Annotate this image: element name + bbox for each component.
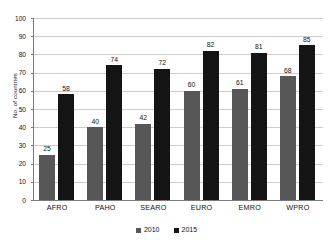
bar-afro-2015 — [58, 94, 74, 200]
y-axis-tick-label: 60 — [19, 87, 26, 94]
bar-value-label: 82 — [196, 41, 226, 49]
legend-swatch-icon — [174, 228, 179, 233]
y-axis-tick-label: 0 — [22, 197, 26, 204]
bar-group: 6181 — [227, 18, 275, 200]
y-axis-tick-mark — [31, 200, 34, 201]
legend-label: 2010 — [144, 226, 160, 234]
bar-value-label: 72 — [147, 59, 177, 67]
bar-chart: No. of countries 0102030405060708090100 … — [0, 0, 333, 246]
x-axis-tick-label-wpro: WPRO — [268, 203, 328, 212]
bar-value-label: 85 — [292, 36, 322, 44]
bar-paho-2010 — [87, 127, 103, 200]
bar-group: 4074 — [82, 18, 130, 200]
y-axis-tick-label: 50 — [19, 106, 26, 113]
y-axis-tick-label: 90 — [19, 33, 26, 40]
y-axis-tick-labels: 0102030405060708090100 — [0, 0, 30, 246]
plot-area: 255840744272608261816885 — [33, 18, 323, 201]
bar-value-label: 81 — [244, 43, 274, 51]
bar-wpro-2010 — [280, 76, 296, 200]
bar-paho-2015 — [106, 65, 122, 200]
y-axis-tick-label: 40 — [19, 124, 26, 131]
y-axis-tick-label: 70 — [19, 69, 26, 76]
bar-group: 6885 — [275, 18, 323, 200]
bar-searo-2010 — [135, 124, 151, 200]
y-axis-tick-label: 30 — [19, 142, 26, 149]
bar-euro-2010 — [184, 91, 200, 200]
y-axis-tick-label: 10 — [19, 178, 26, 185]
legend-item-2015: 2015 — [174, 226, 198, 234]
y-axis-tick-label: 80 — [19, 51, 26, 58]
bar-afro-2010 — [39, 155, 55, 201]
bar-group: 4272 — [130, 18, 178, 200]
legend-item-2010: 2010 — [136, 226, 160, 234]
bar-emro-2010 — [232, 89, 248, 200]
bar-searo-2015 — [154, 69, 170, 200]
bar-wpro-2015 — [299, 45, 315, 200]
legend: 20102015 — [0, 226, 333, 234]
bar-value-label: 74 — [99, 56, 129, 64]
bar-euro-2015 — [203, 51, 219, 200]
bar-group: 6082 — [179, 18, 227, 200]
x-axis-tick-labels: AFROPAHOSEAROEUROEMROWPRO — [33, 203, 322, 217]
legend-label: 2015 — [182, 226, 198, 234]
bar-group: 2558 — [34, 18, 82, 200]
y-axis-tick-label: 100 — [15, 15, 26, 22]
bar-value-label: 58 — [51, 85, 81, 93]
y-axis-tick-label: 20 — [19, 160, 26, 167]
legend-swatch-icon — [136, 228, 141, 233]
bar-groups: 255840744272608261816885 — [34, 18, 323, 200]
bar-emro-2015 — [251, 53, 267, 200]
